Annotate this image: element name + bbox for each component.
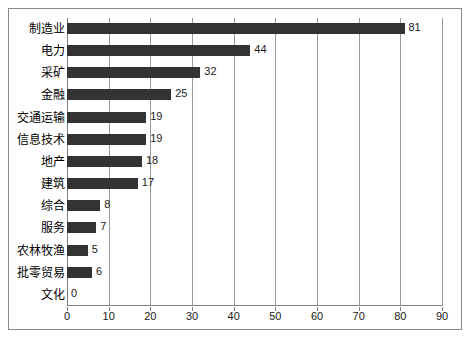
category-label: 服务 [0,217,65,239]
bar [67,23,405,34]
bar-row: 19 [67,107,442,129]
bar-row: 19 [67,129,442,151]
x-axis-tick-labels: 0102030405060708090 [67,307,442,327]
bar [67,112,146,123]
bar [67,156,142,167]
x-tick-label: 80 [394,309,406,323]
bar-value-label: 25 [175,86,187,101]
bar-row: 5 [67,240,442,262]
bar [67,89,171,100]
bar [67,178,138,189]
bar [67,67,200,78]
bar-value-label: 17 [142,175,154,190]
bar [67,245,88,256]
category-label: 文化 [0,284,65,306]
bar [67,45,250,56]
category-label: 批零贸易 [0,262,65,284]
category-label: 地产 [0,151,65,173]
category-label: 信息技术 [0,129,65,151]
chart-frame: 制造业电力采矿金融交通运输信息技术地产建筑综合服务农林牧渔批零贸易文化 8144… [8,8,462,330]
bar-value-label: 8 [104,197,110,212]
category-label: 综合 [0,195,65,217]
category-axis: 制造业电力采矿金融交通运输信息技术地产建筑综合服务农林牧渔批零贸易文化 [0,18,65,306]
bar-row: 8 [67,195,442,217]
bar-value-label: 5 [92,242,98,257]
category-label: 建筑 [0,173,65,195]
bar-row: 44 [67,40,442,62]
x-tick-label: 10 [103,309,115,323]
bar-value-label: 19 [150,109,162,124]
x-tick-label: 90 [436,309,448,323]
x-tick-label: 30 [186,309,198,323]
x-tick-label: 50 [269,309,281,323]
x-tick-label: 40 [228,309,240,323]
category-label: 交通运输 [0,107,65,129]
bar-row: 81 [67,18,442,40]
bar-row: 32 [67,62,442,84]
bar-row: 0 [67,284,442,306]
bar-value-label: 44 [254,42,266,57]
bar [67,200,100,211]
bar-value-label: 0 [71,286,77,301]
x-tick-label: 60 [311,309,323,323]
bar-value-label: 81 [409,20,421,35]
bar-row: 6 [67,262,442,284]
bar-value-label: 18 [146,153,158,168]
gridline-90 [442,18,443,306]
bar [67,134,146,145]
bar [67,267,92,278]
bar-row: 7 [67,217,442,239]
x-tick-label: 0 [64,309,70,323]
category-label: 金融 [0,84,65,106]
bar-row: 17 [67,173,442,195]
category-label: 采矿 [0,62,65,84]
plot-area: 制造业电力采矿金融交通运输信息技术地产建筑综合服务农林牧渔批零贸易文化 8144… [67,18,442,306]
category-label: 农林牧渔 [0,240,65,262]
category-label: 制造业 [0,18,65,40]
bar-value-label: 32 [204,64,216,79]
category-label: 电力 [0,40,65,62]
bar-value-label: 7 [100,219,106,234]
bar [67,222,96,233]
x-tick-label: 70 [353,309,365,323]
bar-row: 18 [67,151,442,173]
bar-value-label: 19 [150,131,162,146]
bar-value-label: 6 [96,264,102,279]
x-tick-label: 20 [144,309,156,323]
bar-row: 25 [67,84,442,106]
